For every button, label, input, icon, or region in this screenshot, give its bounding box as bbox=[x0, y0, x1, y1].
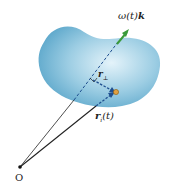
rigid-body-rotation-diagram: ω(t)k r⊥ ri(t) O bbox=[0, 0, 172, 194]
origin-label: O bbox=[15, 172, 23, 183]
r-perp-subscript: ⊥ bbox=[103, 74, 109, 81]
diagram-graphics bbox=[0, 0, 172, 194]
particle-point-icon bbox=[113, 89, 118, 94]
r-i-vector-solid bbox=[20, 106, 96, 167]
r-i-label: ri(t) bbox=[95, 110, 114, 123]
r-i-argument-text: (t) bbox=[102, 110, 114, 121]
rotation-axis-solid bbox=[20, 100, 74, 167]
k-unit-vector-text: k bbox=[138, 10, 145, 21]
r-perp-label: r⊥ bbox=[98, 69, 108, 81]
origin-point-icon bbox=[18, 165, 22, 169]
omega-text: ω(t) bbox=[118, 10, 138, 21]
omega-label: ω(t)k bbox=[118, 10, 145, 21]
